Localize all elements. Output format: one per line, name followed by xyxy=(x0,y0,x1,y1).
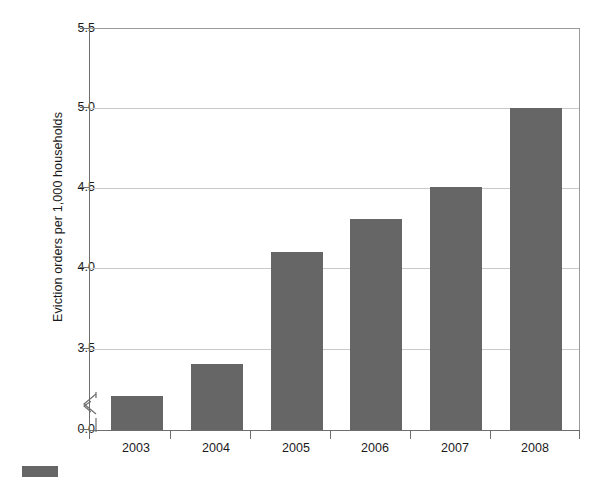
gridline-4.5 xyxy=(90,188,579,189)
x-tick-mark-0 xyxy=(89,430,90,439)
x-tick-mark-3 xyxy=(330,430,331,439)
x-tick-label-2004: 2004 xyxy=(176,441,256,455)
bar-2003[interactable] xyxy=(111,396,163,430)
x-tick-mark-1 xyxy=(170,430,171,439)
y-tick-mark-5.0 xyxy=(80,107,89,108)
y-tick-mark-4.5 xyxy=(80,187,89,188)
x-tick-label-2008: 2008 xyxy=(495,441,575,455)
y-tick-mark-3.5 xyxy=(80,348,89,349)
x-tick-mark-2 xyxy=(250,430,251,439)
gridline-3.5 xyxy=(90,349,579,350)
bar-2005[interactable] xyxy=(271,252,323,430)
x-tick-label-2006: 2006 xyxy=(335,441,415,455)
bar-2007[interactable] xyxy=(430,187,482,430)
y-tick-mark-4.0 xyxy=(80,267,89,268)
x-tick-label-2005: 2005 xyxy=(256,441,336,455)
x-tick-mark-6 xyxy=(579,430,580,439)
x-tick-mark-4 xyxy=(410,430,411,439)
gridline-5.0 xyxy=(90,108,579,109)
bar-chart: Eviction orders per 1,000 households 5.5… xyxy=(0,0,608,479)
bar-2006[interactable] xyxy=(350,219,402,430)
bar-2004[interactable] xyxy=(191,364,243,430)
legend xyxy=(22,466,65,477)
gridline-4.0 xyxy=(90,268,579,269)
legend-swatch-icon xyxy=(22,466,58,477)
x-tick-label-2003: 2003 xyxy=(96,441,176,455)
x-tick-label-2007: 2007 xyxy=(415,441,495,455)
gridline-baseline-0.0 xyxy=(90,430,579,431)
plot-area xyxy=(89,28,580,430)
y-tick-mark-5.5 xyxy=(80,28,89,29)
x-tick-mark-5 xyxy=(490,430,491,439)
bar-2008[interactable] xyxy=(510,108,562,430)
